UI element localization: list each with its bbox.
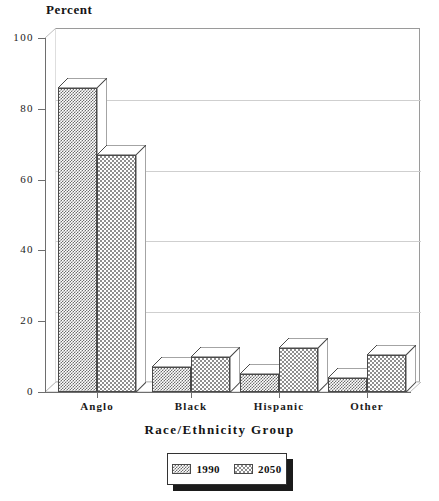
bar-hispanic-1990-face [240, 374, 279, 392]
legend-swatch-1990-icon [172, 464, 191, 474]
y-tick-20 [38, 321, 45, 322]
plot-left-wall [45, 28, 56, 392]
bar-hispanic-2050-face [279, 348, 318, 392]
gridline-80 [56, 100, 421, 101]
x-tick-label-other: Other [350, 400, 384, 412]
y-tick-100 [38, 38, 45, 39]
bar-anglo-2050-side [136, 145, 146, 392]
legend-swatch-2050-icon [234, 464, 253, 474]
x-tick-hispanic [279, 392, 280, 398]
x-tick-other [367, 392, 368, 398]
bar-black-1990-face [152, 367, 191, 392]
bar-anglo-1990 [58, 78, 97, 392]
bar-other-1990 [328, 368, 367, 392]
y-tick-label-40: 40 [20, 243, 34, 255]
x-tick-label-black: Black [175, 400, 207, 412]
x-tick-label-anglo: Anglo [80, 400, 114, 412]
y-tick-label-80: 80 [20, 102, 34, 114]
chart-legend: 1990 2050 [167, 453, 287, 485]
y-tick-80 [38, 109, 45, 110]
bar-black-1990 [152, 357, 191, 392]
x-tick-black [191, 392, 192, 398]
y-tick-label-20: 20 [20, 314, 34, 326]
chart-canvas: Percent 0 20 40 60 80 100 [0, 0, 439, 501]
x-tick-anglo [97, 392, 98, 398]
y-tick-label-60: 60 [20, 173, 34, 185]
y-tick-60 [38, 180, 45, 181]
bar-hispanic-1990 [240, 364, 279, 392]
legend-item-1990: 1990 [172, 463, 220, 475]
y-axis-line [45, 38, 46, 392]
y-tick-40 [38, 250, 45, 251]
y-axis-title: Percent [46, 2, 93, 18]
bar-other-1990-face [328, 378, 367, 392]
bar-other-2050-side [406, 345, 416, 392]
bar-anglo-2050 [97, 145, 136, 392]
bar-black-2050-face [191, 357, 230, 392]
legend-item-2050: 2050 [234, 463, 282, 475]
x-tick-label-hispanic: Hispanic [254, 400, 304, 412]
y-tick-label-0: 0 [27, 385, 34, 397]
x-axis-line [45, 392, 411, 393]
y-tick-0 [38, 392, 45, 393]
bar-black-2050-side [230, 347, 240, 392]
legend-label-1990: 1990 [196, 463, 220, 475]
legend-label-2050: 2050 [258, 463, 282, 475]
bar-anglo-2050-face [97, 155, 136, 392]
bar-other-2050-face [367, 355, 406, 392]
bar-other-2050 [367, 345, 406, 392]
bar-anglo-1990-face [58, 88, 97, 392]
bar-black-2050 [191, 347, 230, 392]
bar-hispanic-2050-side [318, 338, 328, 392]
bar-hispanic-2050 [279, 338, 318, 392]
x-axis-title: Race/Ethnicity Group [0, 422, 439, 438]
y-tick-label-100: 100 [13, 31, 34, 43]
